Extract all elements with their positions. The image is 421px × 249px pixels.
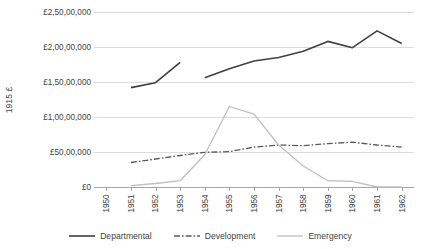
y-axis-title-label: 1915 £ (4, 87, 14, 114)
x-axis-tick-label-text: 1953 (176, 194, 185, 212)
legend-swatch-icon (69, 232, 95, 240)
legend-item-label: Emergency (308, 231, 351, 241)
x-axis-tick-label-text: 1950 (102, 194, 111, 212)
x-axis-tick-label-text: 1961 (373, 194, 382, 212)
line-chart: 1915 £ £0£50,00,000£1,00,00,000£1,50,00,… (0, 0, 421, 249)
x-axis-tick-label-text: 1954 (200, 194, 209, 212)
plot-area (94, 12, 414, 187)
x-axis-tick-label-text: 1962 (397, 194, 406, 212)
x-axis-tick-label-text: 1952 (151, 194, 160, 212)
x-axis-tick-label-text: 1951 (126, 194, 135, 212)
y-axis-tick-label: £2,50,00,000 (43, 8, 91, 17)
series-line (131, 107, 402, 188)
y-axis-tick-label: £1,50,00,000 (43, 78, 91, 87)
chart-legend: DepartmentalDevelopmentEmergency (0, 228, 421, 244)
series-container (94, 12, 414, 187)
series-line (131, 62, 180, 87)
legend-swatch-icon (174, 232, 200, 240)
legend-item[interactable]: Departmental (69, 231, 152, 241)
y-axis-tick-label: £1,00,00,000 (43, 113, 91, 122)
y-axis-tick-label: £2,00,00,000 (43, 43, 91, 52)
x-axis-tick-label-text: 1958 (299, 194, 308, 212)
x-axis-tick-labels: 1950195119521953195419551956195719581959… (94, 191, 414, 223)
legend-swatch-icon (277, 232, 303, 240)
x-axis-tick-label-text: 1956 (250, 194, 259, 212)
x-axis-tick-label: 1962 (386, 191, 418, 221)
x-axis-tick-label-text: 1955 (225, 194, 234, 212)
series-line (131, 142, 402, 162)
legend-item[interactable]: Emergency (277, 231, 351, 241)
x-axis-tick-label-text: 1959 (323, 194, 332, 212)
legend-item-label: Departmental (100, 231, 152, 241)
legend-item[interactable]: Development (174, 231, 256, 241)
y-axis-tick-labels: £0£50,00,000£1,00,00,000£1,50,00,000£2,0… (16, 0, 94, 200)
series-line (205, 31, 402, 78)
x-axis-tick-label-text: 1960 (348, 194, 357, 212)
y-axis-tick-label: £50,00,000 (50, 148, 91, 157)
legend-item-label: Development (205, 231, 256, 241)
x-axis-tick-label-text: 1957 (274, 194, 283, 212)
